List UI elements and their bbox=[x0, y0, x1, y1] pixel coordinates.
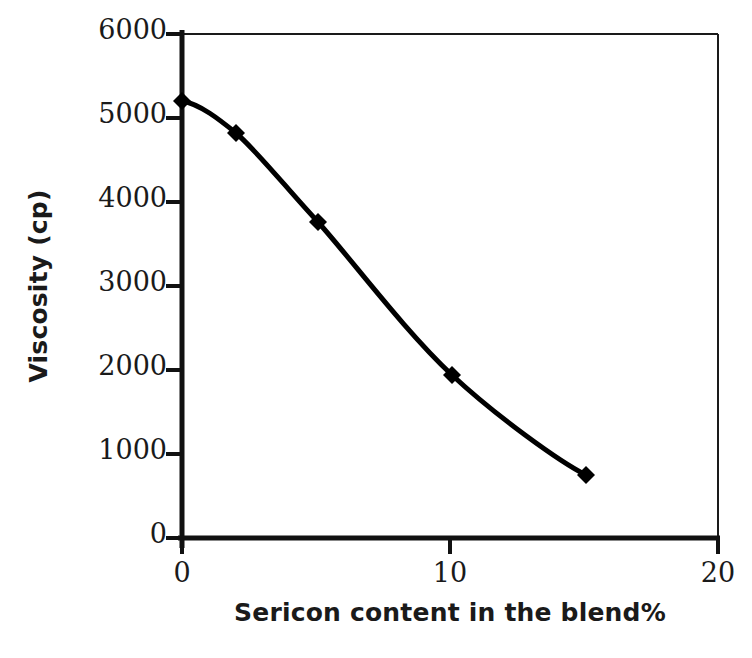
data-point-marker bbox=[577, 466, 595, 484]
data-line-viscosity bbox=[182, 101, 586, 475]
plot-area bbox=[0, 0, 752, 658]
data-point-marker bbox=[173, 92, 191, 110]
data-markers bbox=[173, 92, 595, 484]
chart-figure: Viscosity (cp) Sericon content in the bl… bbox=[0, 0, 752, 658]
